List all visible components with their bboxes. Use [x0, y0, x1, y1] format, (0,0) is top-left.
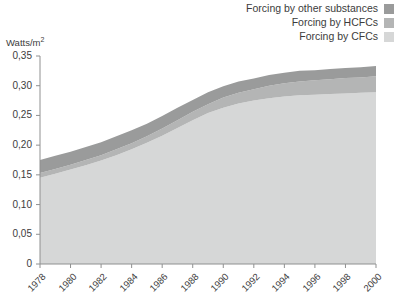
y-tick-label-4: 0,15 [2, 169, 32, 180]
y-tick-label-6: 0,05 [2, 228, 32, 239]
chart-svg [0, 0, 400, 304]
y-tick-label-7: 0 [2, 258, 32, 269]
area-band-cfc [40, 92, 376, 264]
y-tick-label-2: 0,25 [2, 109, 32, 120]
stacked-areas [40, 66, 376, 264]
y-tick-label-5: 0,10 [2, 199, 32, 210]
y-tick-label-0: 0,35 [2, 50, 32, 61]
chart-root: Forcing by other substances Forcing by H… [0, 0, 400, 304]
y-tick-label-1: 0,30 [2, 80, 32, 91]
plot-area: 0,350,300,250,200,150,100,050 1978198019… [0, 0, 400, 304]
y-tick-label-3: 0,20 [2, 139, 32, 150]
